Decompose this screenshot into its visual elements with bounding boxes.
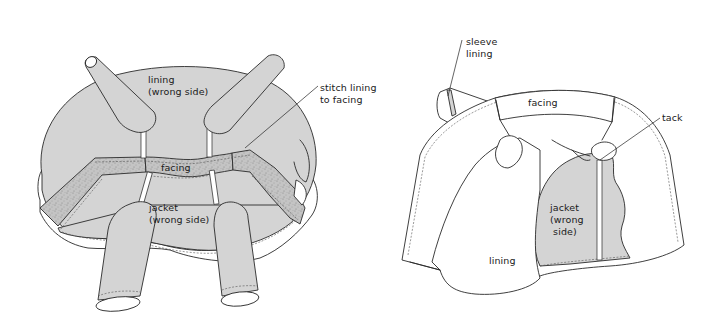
diagram-illustration [0, 0, 723, 328]
label-lining-right: lining [489, 255, 516, 267]
label-facing-right: facing [528, 97, 558, 109]
label-stitch-lining-to-facing: stitch lining to facing [320, 82, 377, 106]
label-facing-left: facing [161, 162, 191, 174]
sewing-diagram: lining (wrong side) stitch lining to fac… [0, 0, 723, 328]
label-jacket-wrong-side-right: jacket (wrong side) [550, 202, 584, 238]
right-jacket-figure [402, 40, 684, 294]
front-tape [597, 160, 602, 260]
label-jacket-wrong-side-left: jacket (wrong side) [149, 202, 209, 226]
label-tack: tack [662, 112, 683, 124]
label-lining-wrong-side: lining (wrong side) [148, 74, 208, 98]
label-sleeve-lining: sleeve lining [466, 36, 497, 60]
